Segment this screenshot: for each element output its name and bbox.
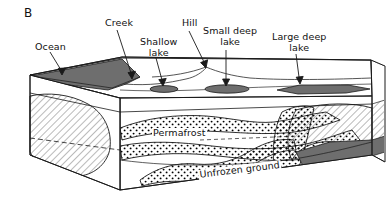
shallow-lake-lens xyxy=(150,86,178,93)
callout-label-small-deep-lake: Small deep lake xyxy=(203,26,257,47)
leader-ocean xyxy=(50,52,61,70)
callout-label-hill: Hill xyxy=(182,18,197,29)
callout-label-creek: Creek xyxy=(105,18,133,29)
interior-label-permafrost: Permafrost xyxy=(152,128,207,139)
small-deep-lake-lens xyxy=(205,85,249,93)
callout-label-ocean: Ocean xyxy=(35,42,66,53)
callout-label-large-deep-lake: Large deep lake xyxy=(272,32,327,53)
figure-panel: B xyxy=(0,0,389,205)
block-diagram-svg xyxy=(0,0,389,205)
callout-label-shallow-lake: Shallow lake xyxy=(140,37,177,58)
